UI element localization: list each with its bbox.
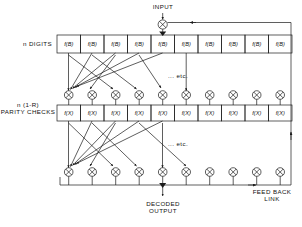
digit-box-label: f(B) xyxy=(269,40,293,49)
parity-box-label: f(X) xyxy=(104,109,128,118)
parity-box-label: f(X) xyxy=(151,109,175,118)
parity-box-label: f(X) xyxy=(128,109,152,118)
digit-box-label: f(B) xyxy=(57,40,81,49)
digit-box-label: f(B) xyxy=(151,40,175,49)
digit-box-label: f(B) xyxy=(222,40,246,49)
digit-box-label: f(B) xyxy=(175,40,199,49)
digit-box-label: f(B) xyxy=(245,40,269,49)
digit-box-label: f(B) xyxy=(104,40,128,49)
parity-box-label: f(X) xyxy=(245,109,269,118)
decoder-block-diagram: INPUT n DIGITS n (1-R) PARITY CHECKS ...… xyxy=(0,0,302,227)
upper-xor-to-parity-stems xyxy=(69,99,281,105)
digits-row-label: n DIGITS xyxy=(2,40,52,47)
feedback-link-label-line2: LINK xyxy=(248,195,296,202)
decoded-output-label-line2: OUTPUT xyxy=(133,207,193,214)
input-xor-gate xyxy=(158,20,167,29)
input-label: INPUT xyxy=(142,3,184,10)
digit-box-label: f(B) xyxy=(128,40,152,49)
parity-box-label: f(X) xyxy=(222,109,246,118)
parity-box-label: f(X) xyxy=(269,109,293,118)
parity-row-label-line2: PARITY CHECKS xyxy=(0,108,56,115)
etc-label-lower: ... etc. xyxy=(168,140,208,147)
parity-box-label: f(X) xyxy=(198,109,222,118)
etc-label-upper: ... etc. xyxy=(168,72,208,79)
parity-box-label: f(X) xyxy=(175,109,199,118)
digit-box-label: f(B) xyxy=(81,40,105,49)
digit-box-label: f(B) xyxy=(198,40,222,49)
lower-xor-gate-row xyxy=(64,168,284,177)
lower-xor-to-bus-stems xyxy=(69,176,281,185)
parity-box-label: f(X) xyxy=(57,109,81,118)
upper-xor-gate-row xyxy=(64,91,284,100)
parity-box-label: f(X) xyxy=(81,109,105,118)
decoded-output-tap-marker xyxy=(159,183,166,188)
